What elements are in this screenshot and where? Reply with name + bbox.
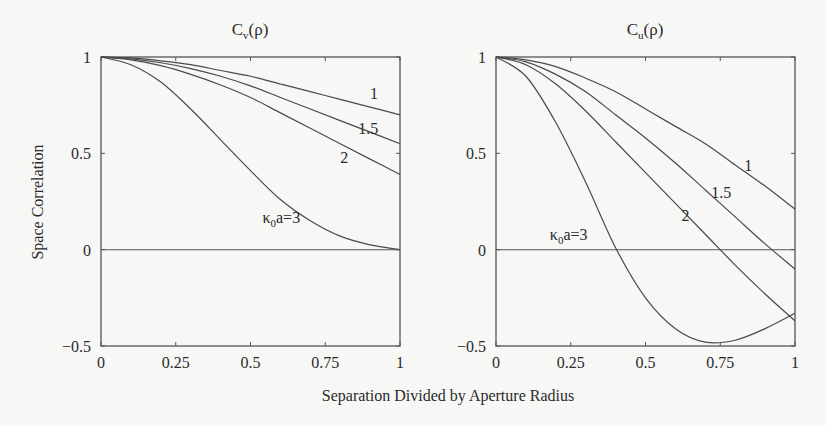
plot-frame-cv [101,57,400,346]
ticks-cu: 00.250.50.75110.50−0.5 [457,49,799,371]
x-tick-label: 0.5 [636,354,656,371]
plot-frame-cu [496,57,795,346]
curve-2 [101,57,400,175]
panel-title-cu: Cu(ρ) [627,20,664,41]
curve-label: 2 [681,207,689,224]
x-tick-label: 0.75 [706,354,734,371]
y-tick-label: 0.5 [71,145,91,162]
x-tick-label: 0.25 [162,354,190,371]
curve-1 [496,57,795,209]
y-tick-label: −0.5 [62,338,91,355]
x-tick-label: 1 [791,354,799,371]
y-tick-label: 0 [478,242,486,259]
curve-label: 1 [370,85,378,102]
y-tick-label: 1 [83,49,91,66]
y-tick-label: 0 [83,242,91,259]
curve-label: κ0a=3 [262,209,300,229]
x-tick-label: 0.5 [241,354,261,371]
y-tick-label: 0.5 [466,145,486,162]
y-tick-label: −0.5 [457,338,486,355]
y-tick-label: 1 [478,49,486,66]
curves-cv [101,57,400,250]
curve-labels-cv: 11.52κ0a=3 [262,85,378,228]
curve-label: κ0a=3 [550,226,588,246]
curve-label: 1 [744,157,752,174]
x-tick-label: 0 [97,354,105,371]
curves-cu [496,57,795,343]
x-tick-label: 1 [396,354,404,371]
panel-cu: Cu(ρ) 00.250.50.75110.50−0.5 11.52κ0a=3 [457,20,799,371]
curve-label: 2 [340,149,348,166]
x-axis-label: Separation Divided by Aperture Radius [322,387,574,405]
x-tick-label: 0 [492,354,500,371]
y-axis-label: Space Correlation [29,144,47,259]
curve-label: 1.5 [358,120,378,137]
curve-label: 1.5 [711,184,731,201]
x-tick-label: 0.75 [311,354,339,371]
x-tick-label: 0.25 [557,354,585,371]
curve-1.5 [101,57,400,144]
figure: Cv(ρ) 00.250.50.75110.50−0.5 11.52κ0a=3 … [0,0,826,426]
panel-title-cv: Cv(ρ) [232,20,269,41]
ticks-cv: 00.250.50.75110.50−0.5 [62,49,404,371]
panel-cv: Cv(ρ) 00.250.50.75110.50−0.5 11.52κ0a=3 [62,20,404,371]
curve-0a3 [496,57,795,343]
